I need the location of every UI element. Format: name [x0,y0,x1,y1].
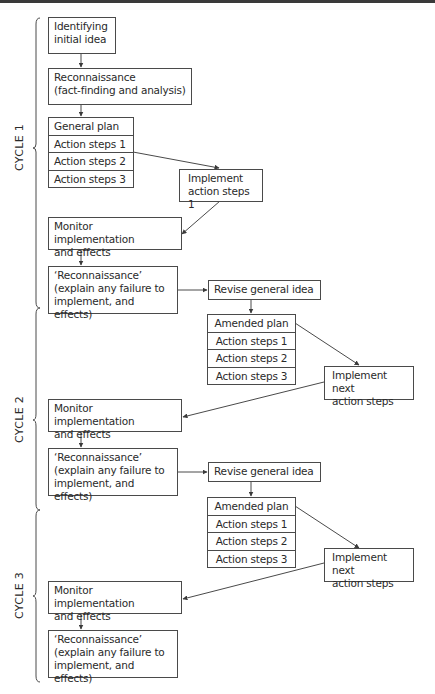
action-step: Action steps 2 [208,533,295,551]
action-step: Action steps 2 [49,153,133,171]
amended-plan-box-cycle-2: Amended plan Action steps 1 Action steps… [207,314,296,385]
reconnaissance-explain-box-cycle-2: ‘Reconnaissance’ (explain any failure to… [48,448,178,496]
cycle-1-label: CYCLE 1 [13,108,26,188]
box-line: action steps [332,577,408,590]
box-line: ‘Reconnaissance’ [54,451,172,464]
plan-title: General plan [49,118,133,136]
action-step: Action steps 1 [208,516,295,534]
box-line: Implement next [332,369,408,395]
action-step: Action steps 3 [208,551,295,569]
box-line: Identifying [54,20,110,33]
box-line: implement, and effects) [54,477,172,503]
plan-title: Amended plan [208,498,295,516]
box-line: Implement [188,172,257,185]
box-line: (explain any failure to [54,646,172,659]
action-step: Action steps 2 [208,350,295,368]
box-line: and effects [54,428,176,441]
box-line: initial idea [54,33,110,46]
amended-plan-box-cycle-3: Amended plan Action steps 1 Action steps… [207,497,296,568]
box-line: Implement next [332,551,408,577]
box-line: and effects [54,246,176,259]
reconnaissance-explain-box-cycle-3: ‘Reconnaissance’ (explain any failure to… [48,630,178,678]
box-line: action steps [332,395,408,408]
box-line: ‘Reconnaissance’ [54,269,172,282]
box-line: ‘Reconnaissance’ [54,633,172,646]
implement-next-box-cycle-2: Implement next action steps [324,366,414,400]
cycle-2-label: CYCLE 2 [13,380,26,460]
action-step: Action steps 1 [49,136,133,154]
box-line: Monitor implementation [54,402,176,428]
box-line: action steps 1 [188,185,257,211]
box-line: implement, and effects) [54,295,172,321]
implement-next-box-cycle-3: Implement next action steps [324,548,414,582]
box-line: (explain any failure to [54,282,172,295]
box-line: Monitor implementation [54,220,176,246]
action-step: Action steps 3 [49,171,133,189]
box-line: (fact-finding and analysis) [54,84,186,97]
box-line: Reconnaissance [54,71,186,84]
general-plan-box: General plan Action steps 1 Action steps… [48,117,134,188]
implement-action-steps-1-box: Implement action steps 1 [179,169,263,202]
box-line: Revise general idea [214,465,315,478]
cycle-3-label: CYCLE 3 [13,556,26,636]
monitor-box-cycle-3: Monitor implementation and effects [48,581,182,614]
box-line: Monitor implementation [54,584,176,610]
revise-general-idea-box-1: Revise general idea [208,280,321,300]
action-step: Action steps 1 [208,333,295,351]
reconnaissance-explain-box-cycle-1: ‘Reconnaissance’ (explain any failure to… [48,266,178,314]
box-line: Revise general idea [214,283,315,296]
action-step: Action steps 3 [208,368,295,386]
box-line: implement, and effects) [54,659,172,685]
monitor-box-cycle-1: Monitor implementation and effects [48,217,182,250]
box-line: and effects [54,610,176,623]
monitor-box-cycle-2: Monitor implementation and effects [48,399,182,432]
reconnaissance-box: Reconnaissance (fact-finding and analysi… [48,68,192,105]
identifying-initial-idea-box: Identifying initial idea [48,17,116,54]
plan-title: Amended plan [208,315,295,333]
box-line: (explain any failure to [54,464,172,477]
revise-general-idea-box-2: Revise general idea [208,462,321,482]
